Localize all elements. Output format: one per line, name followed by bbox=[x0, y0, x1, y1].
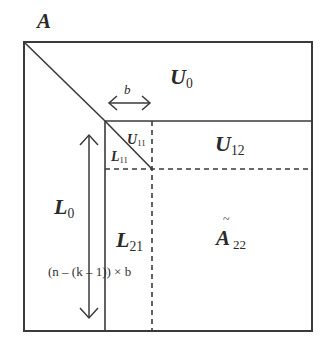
diagonal-upper bbox=[24, 42, 105, 121]
u0-label: U0 bbox=[170, 64, 193, 92]
outer-matrix-box bbox=[24, 42, 312, 331]
matrix-a-label: A bbox=[37, 9, 51, 34]
a22-label: ~ A 22 bbox=[216, 226, 246, 253]
l21-label: L21 bbox=[116, 227, 143, 255]
l11-label: L11 bbox=[111, 149, 128, 165]
width-b-arrow-icon bbox=[109, 96, 150, 110]
b-label: b bbox=[124, 82, 131, 98]
l0-label: L0 bbox=[54, 194, 74, 222]
tilde-accent: ~ bbox=[223, 212, 230, 227]
matrix-diagram bbox=[0, 0, 331, 351]
u12-label: U12 bbox=[215, 131, 245, 159]
height-expression-label: (n – (k – 1)) × b bbox=[48, 264, 131, 280]
u11-label: U11 bbox=[127, 132, 145, 148]
height-arrow-icon bbox=[80, 135, 98, 318]
